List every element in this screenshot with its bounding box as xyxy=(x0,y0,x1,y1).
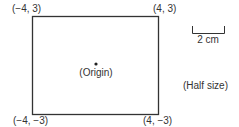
scale-bar-line xyxy=(193,26,225,34)
label-top-right: (4, 3) xyxy=(153,3,176,14)
scale-bar-label: 2 cm xyxy=(197,34,219,45)
origin-label: (Origin) xyxy=(79,67,112,78)
origin-point xyxy=(94,62,97,65)
rectangle-diagram: (−4, 3) (4, 3) (−4, −3) (4, −3) (Origin)… xyxy=(0,0,239,127)
label-top-left: (−4, 3) xyxy=(12,3,41,14)
label-bottom-right: (4, −3) xyxy=(143,115,172,126)
label-bottom-left: (−4, −3) xyxy=(13,115,48,126)
scale-bar: 2 cm xyxy=(193,26,225,45)
size-note: (Half size) xyxy=(183,80,228,91)
